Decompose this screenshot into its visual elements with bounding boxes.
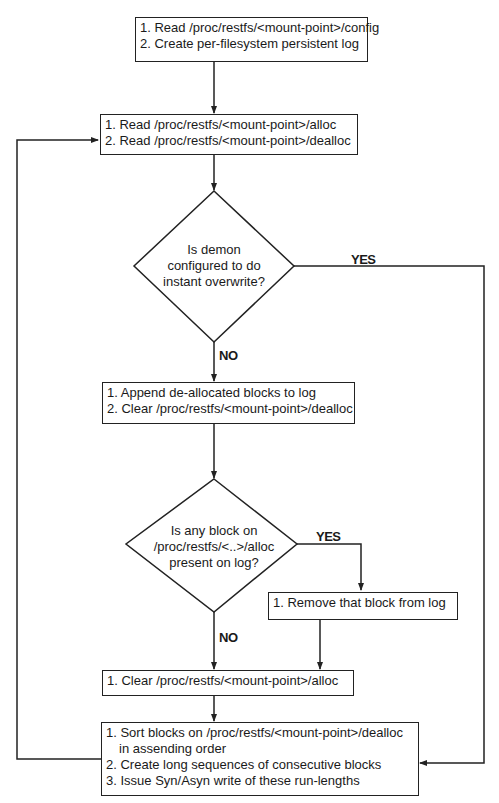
overwrite-no-label: NO	[219, 348, 238, 363]
block-q-line-1: Is any block on	[136, 523, 292, 539]
block-q-line-2: /proc/restfs/<..>/alloc	[136, 539, 292, 555]
append-process-box: 1. Append de-allocated blocks to log 2. …	[102, 382, 355, 424]
sort-step-1: 1. Sort blocks on /proc/restfs/<mount-po…	[106, 725, 414, 741]
overwrite-q-line-2: configured to do	[144, 258, 284, 274]
block-q-line-3: present on log?	[136, 555, 292, 571]
overwrite-decision-text: Is demon configured to do instant overwr…	[144, 242, 284, 290]
append-step-2: 2. Clear /proc/restfs/<mount-point>/deal…	[107, 401, 350, 417]
sort-write-process-box: 1. Sort blocks on /proc/restfs/<mount-po…	[101, 722, 419, 796]
init-step-2: 2. Create per-filesystem persistent log	[140, 36, 363, 52]
remove-step-1: 1. Remove that block from log	[273, 595, 453, 611]
remove-process-box: 1. Remove that block from log	[268, 592, 458, 620]
read-process-box: 1. Read /proc/restfs/<mount-point>/alloc…	[100, 114, 358, 155]
block-decision-text: Is any block on /proc/restfs/<..>/alloc …	[136, 523, 292, 571]
block-no-label: NO	[219, 630, 238, 645]
overwrite-yes-label: YES	[351, 252, 376, 267]
init-step-1: 1. Read /proc/restfs/<mount-point>/confi…	[140, 20, 363, 36]
clear-alloc-process-box: 1. Clear /proc/restfs/<mount-point>/allo…	[102, 670, 354, 696]
read-step-1: 1. Read /proc/restfs/<mount-point>/alloc	[105, 117, 353, 133]
clear-alloc-step-1: 1. Clear /proc/restfs/<mount-point>/allo…	[107, 673, 349, 689]
sort-step-2: 2. Create long sequences of consecutive …	[106, 757, 414, 773]
overwrite-q-line-3: instant overwrite?	[144, 274, 284, 290]
overwrite-q-line-1: Is demon	[144, 242, 284, 258]
init-process-box: 1. Read /proc/restfs/<mount-point>/confi…	[135, 17, 368, 62]
sort-step-3: 3. Issue Syn/Asyn write of these run-len…	[106, 773, 414, 789]
append-step-1: 1. Append de-allocated blocks to log	[107, 385, 350, 401]
sort-step-1-cont: in assending order	[106, 741, 414, 757]
block-yes-label: YES	[316, 529, 341, 544]
read-step-2: 2. Read /proc/restfs/<mount-point>/deall…	[105, 133, 353, 149]
